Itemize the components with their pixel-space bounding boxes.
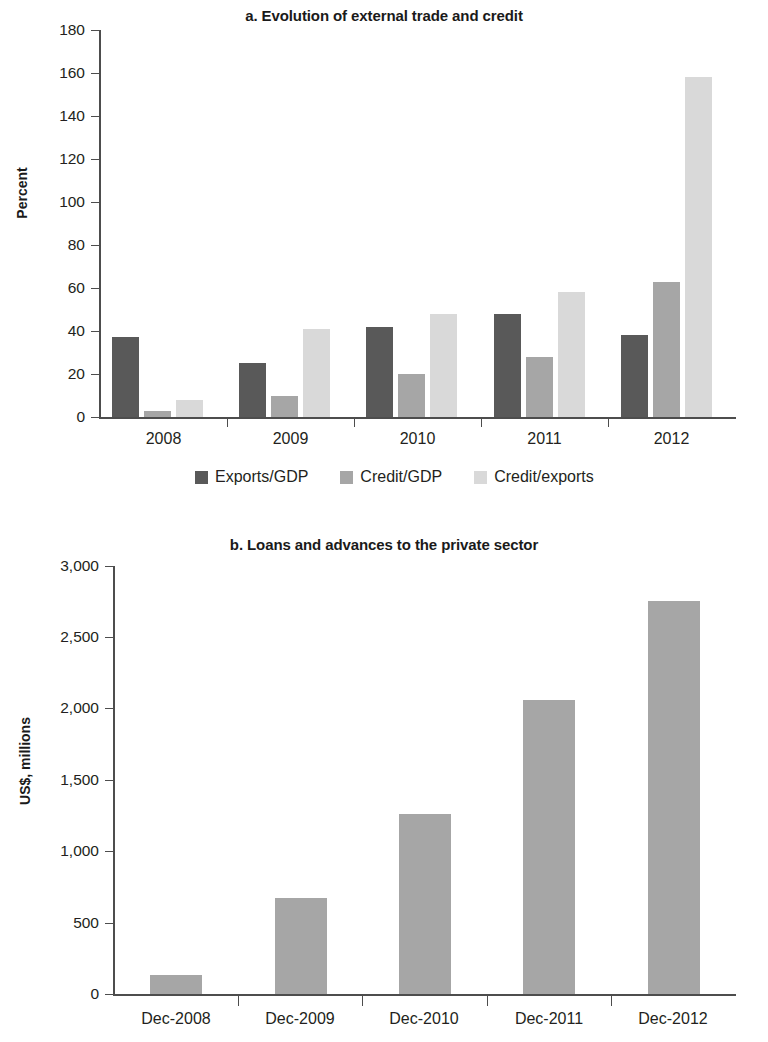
panel-a-xlabel-2012: 2012 [608,430,735,448]
bar-credit-exports-2010 [430,314,457,417]
bar-exports-gdp-2008 [112,337,139,417]
panel-a-x-sep-2 [354,418,355,427]
panel-a-xlabel-2009: 2009 [227,430,354,448]
panel-b-plot-area: 3,000 2,500 2,000 1,500 1,000 500 0 Dec-… [0,508,768,1042]
legend-label: Credit/exports [494,468,594,486]
panel-a-legend: Exports/GDPCredit/GDPCredit/exports [195,468,616,486]
panel-a-xlabel-2008: 2008 [100,430,227,448]
panel-b-x-axis-line [113,994,736,996]
panel-a-tick-0 [91,417,100,418]
legend-item-credit-gdp[interactable]: Credit/GDP [340,468,442,486]
panel-a-x-sep-3 [481,418,482,427]
panel-a-tick-160 [91,73,100,74]
panel-b-ylabel-2000: 2,000 [5,700,99,716]
panel-b-tick-500 [105,923,114,924]
panel-a-x-sep-4 [608,418,609,427]
bar-loans-Dec-2011 [523,700,575,994]
panel-a-xlabel-2011: 2011 [481,430,608,448]
panel-b-xlabel-dec2008: Dec-2008 [114,1010,238,1028]
panel-a-figure: a. Evolution of external trade and credi… [0,0,768,500]
bar-loans-Dec-2008 [150,975,202,994]
bar-credit-gdp-2009 [271,396,298,418]
bar-credit-gdp-2008 [144,411,171,417]
panel-b-x-sep-1 [238,995,239,1006]
panel-b-tick-1500 [105,780,114,781]
panel-a-ylabel-20: 20 [20,366,85,382]
panel-a-plot-area: 180 160 140 120 100 80 60 40 20 0 2008 2… [0,0,768,500]
panel-b-ylabel-1500: 1,500 [5,772,99,788]
bar-credit-exports-2012 [685,77,712,417]
panel-b-xlabel-dec2009: Dec-2009 [238,1010,362,1028]
panel-b-bars [114,566,736,994]
panel-a-tick-20 [91,374,100,375]
panel-a-xlabel-2010: 2010 [354,430,481,448]
panel-b-ylabel-500: 500 [5,915,99,931]
panel-b-xlabel-dec2010: Dec-2010 [362,1010,486,1028]
panel-b-ylabel-2500: 2,500 [5,629,99,645]
panel-b-x-sep-4 [611,995,612,1006]
panel-a-ylabel-60: 60 [20,280,85,296]
legend-label: Exports/GDP [215,468,308,486]
panel-b-tick-3000 [105,566,114,567]
panel-a-x-axis-line [99,417,736,419]
bar-credit-gdp-2010 [398,374,425,417]
bar-credit-exports-2008 [176,400,203,417]
bar-credit-exports-2009 [303,329,330,417]
panel-a-ylabel-120: 120 [20,151,85,167]
bar-exports-gdp-2009 [239,363,266,417]
bar-credit-gdp-2011 [526,357,553,417]
panel-a-tick-140 [91,116,100,117]
bar-credit-gdp-2012 [653,282,680,417]
legend-swatch-icon [195,471,208,484]
panel-a-ylabel-40: 40 [20,323,85,339]
legend-swatch-icon [340,471,353,484]
legend-label: Credit/GDP [360,468,442,486]
bar-exports-gdp-2010 [366,327,393,417]
panel-a-bars [100,30,736,417]
panel-b-xlabel-dec2012: Dec-2012 [611,1010,735,1028]
panel-a-tick-120 [91,159,100,160]
panel-a-ylabel-180: 180 [20,22,85,38]
panel-a-ylabel-80: 80 [20,237,85,253]
bar-exports-gdp-2011 [494,314,521,417]
legend-item-credit-exports[interactable]: Credit/exports [474,468,594,486]
panel-a-ylabel-0: 0 [20,409,85,425]
panel-b-x-sep-2 [362,995,363,1006]
panel-a-ylabel-140: 140 [20,108,85,124]
panel-b-figure: b. Loans and advances to the private sec… [0,508,768,1042]
panel-a-ylabel-100: 100 [20,194,85,210]
panel-a-tick-60 [91,288,100,289]
bar-loans-Dec-2009 [275,898,327,994]
panel-a-tick-180 [91,30,100,31]
panel-b-x-sep-3 [487,995,488,1006]
panel-a-x-sep-1 [227,418,228,427]
panel-b-tick-2500 [105,637,114,638]
panel-b-ylabel-3000: 3,000 [5,558,99,574]
panel-b-xlabel-dec2011: Dec-2011 [487,1010,611,1028]
legend-swatch-icon [474,471,487,484]
bar-credit-exports-2011 [558,292,585,417]
panel-a-tick-80 [91,245,100,246]
panel-b-ylabel-1000: 1,000 [5,843,99,859]
panel-b-tick-2000 [105,708,114,709]
panel-a-tick-100 [91,202,100,203]
bar-loans-Dec-2010 [399,814,451,994]
panel-b-tick-1000 [105,851,114,852]
panel-a-ylabel-160: 160 [20,65,85,81]
bar-exports-gdp-2012 [621,335,648,417]
panel-b-ylabel-0: 0 [5,986,99,1002]
legend-item-exports-gdp[interactable]: Exports/GDP [195,468,308,486]
panel-a-tick-40 [91,331,100,332]
bar-loans-Dec-2012 [648,601,700,994]
panel-b-tick-0 [105,994,114,995]
